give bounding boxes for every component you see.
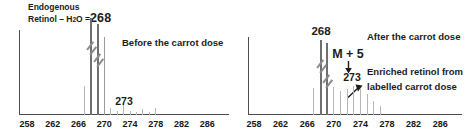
x-tick-label: 270 xyxy=(97,119,112,129)
x-tick-label: 274 xyxy=(122,119,137,129)
retinol-mass-spectra-figure: Endogenous Retinol – H2O =268 Before the… xyxy=(0,0,469,137)
x-tick-label: 274 xyxy=(353,119,368,129)
x-tick-label: 278 xyxy=(148,119,163,129)
x-tick-label: 286 xyxy=(433,119,448,129)
formula-suffix: O = xyxy=(76,15,90,24)
x-tick-label: 282 xyxy=(174,119,189,129)
x-tick-label: 262 xyxy=(273,119,288,129)
mass-peak-275 xyxy=(367,94,368,115)
panel-after-carrot-dose: 268 After the carrot dose M + 5 273 Enri… xyxy=(235,0,469,137)
mass-peak-269 xyxy=(97,24,99,115)
note-line2: labelled carrot dose xyxy=(367,81,457,92)
y-axis xyxy=(248,37,249,115)
m-plus-5-label: M + 5 xyxy=(332,47,364,61)
x-tick-label: 262 xyxy=(45,119,60,129)
mass-peak-271 xyxy=(110,108,111,115)
x-tick-label: 266 xyxy=(71,119,86,129)
mass-peak-276 xyxy=(373,101,374,115)
right-caption: After the carrot dose xyxy=(367,31,460,42)
mass-peak-270 xyxy=(104,37,105,115)
x-tick-label: 258 xyxy=(246,119,261,129)
mass-peak-276 xyxy=(142,109,143,115)
formula-mass-268: 268 xyxy=(90,11,111,25)
mass-peak-267 xyxy=(84,86,85,115)
x-tick-label: 258 xyxy=(19,119,34,129)
right-peak-268-label: 268 xyxy=(311,25,330,37)
mass-peak-275 xyxy=(136,112,137,115)
formula-prefix: Retinol – H xyxy=(28,15,72,24)
northeast-arrow-icon xyxy=(346,82,365,99)
x-tick-label: 282 xyxy=(406,119,421,129)
left-title-formula: Retinol – H2O =268 xyxy=(28,11,111,25)
mass-peak-278 xyxy=(155,108,156,115)
panel-before-carrot-dose: Endogenous Retinol – H2O =268 Before the… xyxy=(0,0,235,137)
mass-peak-267 xyxy=(313,88,314,115)
note-line1: Enriched retinol from xyxy=(367,66,463,77)
mass-peak-272 xyxy=(347,89,348,115)
mass-peak-274 xyxy=(360,88,361,115)
mass-peak-268 xyxy=(90,18,92,115)
left-caption: Before the carrot dose xyxy=(122,37,223,48)
x-tick-label: 278 xyxy=(379,119,394,129)
mass-peak-272 xyxy=(117,111,118,115)
mass-peak-270 xyxy=(333,87,334,115)
mass-peak-268 xyxy=(320,40,322,115)
x-axis xyxy=(248,114,462,115)
mass-peak-274 xyxy=(130,111,131,115)
mass-peak-277 xyxy=(149,112,150,115)
mass-peak-271 xyxy=(340,91,341,115)
mass-peak-277 xyxy=(380,106,381,115)
x-tick-label: 270 xyxy=(326,119,341,129)
x-tick-label: 286 xyxy=(200,119,215,129)
mass-peak-273 xyxy=(123,105,124,115)
y-axis xyxy=(19,30,20,115)
x-tick-label: 266 xyxy=(300,119,315,129)
mass-peak-273 xyxy=(353,86,354,115)
